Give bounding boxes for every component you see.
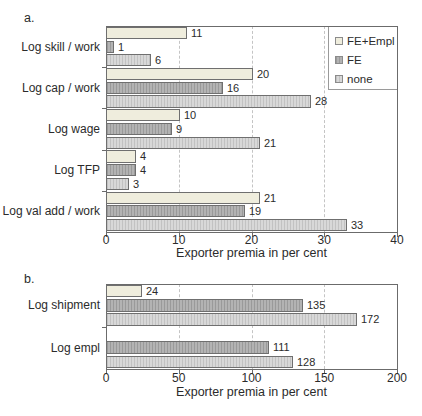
category-label: Log cap / work	[0, 81, 100, 95]
bar	[106, 109, 180, 121]
bar-value-label: 135	[307, 299, 325, 312]
bar	[106, 219, 347, 231]
category-label: Log TFP	[0, 163, 100, 177]
bar	[106, 285, 142, 298]
panel-a-label: a.	[24, 11, 34, 25]
bar-value-label: 111	[273, 341, 290, 354]
bar	[106, 95, 311, 107]
x-tick-label: 150	[302, 371, 346, 385]
bar-value-label: 3	[133, 178, 139, 190]
bar	[106, 41, 114, 53]
x-tick-label: 0	[84, 371, 128, 385]
bar-value-label: 20	[257, 68, 269, 80]
bar-value-label: 128	[297, 356, 315, 369]
x-tick-label: 10	[157, 233, 201, 247]
bar-value-label: 16	[227, 82, 239, 94]
bar-value-label: 1	[118, 41, 124, 53]
bar-value-label: 11	[191, 27, 202, 39]
bar-value-label: 24	[146, 285, 158, 298]
panel-b-label: b.	[24, 272, 34, 286]
panel-a-axis-title: Exporter premia in per cent	[106, 246, 397, 260]
y-axis-group-tick	[102, 327, 106, 328]
bar-value-label: 19	[249, 205, 261, 217]
bar-value-label: 4	[140, 150, 146, 162]
category-label: Log wage	[0, 122, 100, 136]
bar	[106, 192, 260, 204]
bar	[106, 82, 223, 94]
bar	[106, 54, 151, 66]
bar	[106, 68, 253, 80]
bar	[106, 313, 357, 326]
bar	[106, 123, 172, 135]
panel-b-axis-title: Exporter premia in per cent	[106, 385, 397, 399]
category-label: Log skill / work	[0, 40, 100, 54]
category-label: Log val add / work	[0, 204, 100, 218]
x-tick-label: 50	[157, 371, 201, 385]
x-tick-label: 100	[230, 371, 274, 385]
bar	[106, 299, 303, 312]
bar	[106, 150, 136, 162]
x-tick-label: 0	[84, 233, 128, 247]
bar	[106, 341, 269, 354]
bar	[106, 205, 245, 217]
x-tick-label: 40	[375, 233, 419, 247]
bar	[106, 164, 136, 176]
bar-value-label: 21	[264, 192, 276, 204]
x-tick-label: 200	[375, 371, 419, 385]
category-label: Log empl	[0, 341, 100, 355]
bar	[106, 356, 293, 369]
bar-value-label: 9	[176, 123, 182, 135]
category-label: Log shipment	[0, 298, 100, 312]
x-tick-label: 20	[230, 233, 274, 247]
bar-value-label: 33	[351, 219, 363, 231]
bar-value-label: 4	[140, 164, 146, 176]
bar-value-label: 28	[315, 95, 327, 107]
bar	[106, 137, 260, 149]
bar-value-label: 21	[264, 137, 276, 149]
bar-value-label: 10	[184, 109, 196, 121]
bar-value-label: 6	[155, 54, 161, 66]
bar	[106, 27, 187, 39]
bar	[106, 178, 129, 190]
bar-value-label: 172	[361, 313, 379, 326]
figure: a. b. Exporter premia in per cent Export…	[0, 0, 422, 416]
x-tick-label: 30	[302, 233, 346, 247]
